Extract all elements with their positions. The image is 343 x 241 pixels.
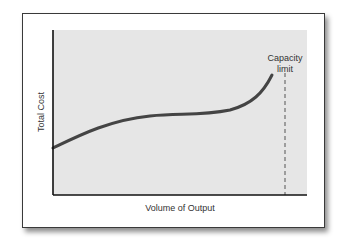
capacity-label-line2: limit	[277, 64, 293, 74]
capacity-label-line1: Capacity	[267, 53, 303, 63]
x-axis-label: Volume of Output	[145, 203, 215, 213]
total-cost-chart: Capacity limit Volume of Output Total Co…	[0, 0, 343, 241]
y-axis-label: Total Cost	[36, 91, 46, 132]
